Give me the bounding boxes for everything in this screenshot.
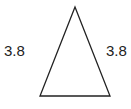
triangle-diagram: 3.8 3.8 <box>0 0 131 109</box>
isosceles-triangle <box>40 7 110 96</box>
left-side-length-label: 3.8 <box>4 42 25 59</box>
right-side-length-label: 3.8 <box>106 42 127 59</box>
